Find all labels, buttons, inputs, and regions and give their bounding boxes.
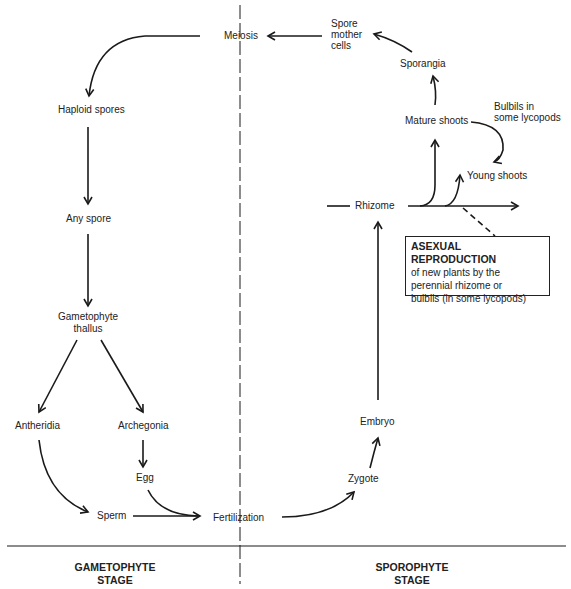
node-haploid-spores: Haploid spores	[58, 104, 125, 116]
asexual-reproduction-box: ASEXUAL REPRODUCTION of new plants by th…	[405, 236, 550, 296]
node-young-shoots: Young shoots	[467, 170, 527, 182]
arrow-gameto-antheridia	[39, 340, 77, 412]
node-rhizome: Rhizome	[355, 200, 394, 212]
node-spore-mother-cells: Spore mother cells	[331, 18, 362, 51]
arrow-egg-fert	[148, 490, 198, 516]
arrow-gameto-archegonia	[101, 340, 143, 412]
asexual-box-line3: bulbils (in some lycopods)	[411, 292, 544, 305]
stage-label-gametophyte: GAMETOPHYTE STAGE	[65, 561, 165, 587]
arrow-antheridia-sperm	[39, 440, 88, 512]
node-gametophyte-thallus: Gametophyte thallus	[56, 311, 120, 335]
stage-label-sporophyte: SPOROPHYTE STAGE	[362, 561, 462, 587]
node-archegonia: Archegonia	[118, 420, 169, 432]
node-fertilization: Fertilization	[213, 512, 264, 524]
node-meiosis: Meiosis	[224, 30, 258, 42]
node-sporangia: Sporangia	[400, 58, 446, 70]
node-gametophyte-line1: Gametophyte	[56, 311, 120, 323]
arrow-mature-sporangia	[433, 76, 436, 105]
node-mature-shoots: Mature shoots	[405, 115, 468, 127]
arrow-rhizome-mature	[420, 140, 435, 206]
arrow-sporangia-smc	[374, 34, 412, 52]
node-spore-mother-cells-line2: mother	[331, 29, 362, 40]
arrow-bulbils-young	[471, 122, 503, 162]
stage-gametophyte-line1: GAMETOPHYTE	[65, 561, 165, 574]
stage-gametophyte-line2: STAGE	[65, 574, 165, 587]
arrow-fert-zygote	[282, 492, 354, 517]
node-bulbils: Bulbils in some lycopods	[494, 101, 561, 123]
asexual-box-line1: of new plants by the	[411, 266, 544, 279]
node-spore-mother-cells-line3: cells	[331, 40, 362, 51]
asexual-box-line2: perennial rhizome or	[411, 279, 544, 292]
node-any-spore: Any spore	[66, 213, 111, 225]
node-antheridia: Antheridia	[15, 420, 60, 432]
node-gametophyte-line2: thallus	[56, 323, 120, 335]
node-spore-mother-cells-line1: Spore	[331, 18, 362, 29]
arrow-meiosis-haploid	[89, 36, 200, 96]
node-embryo: Embryo	[360, 416, 394, 428]
stage-sporophyte-line2: STAGE	[362, 574, 462, 587]
node-sperm: Sperm	[97, 510, 126, 522]
node-bulbils-line1: Bulbils in	[494, 101, 561, 112]
stage-sporophyte-line1: SPOROPHYTE	[362, 561, 462, 574]
asexual-box-title: ASEXUAL REPRODUCTION	[411, 240, 544, 266]
arrow-rhizome-young	[445, 175, 460, 206]
node-zygote: Zygote	[348, 473, 379, 485]
arrow-zygote-embryo	[370, 438, 378, 468]
dashed-pointer	[463, 208, 495, 236]
node-egg: Egg	[136, 472, 154, 484]
node-bulbils-line2: some lycopods	[494, 112, 561, 123]
